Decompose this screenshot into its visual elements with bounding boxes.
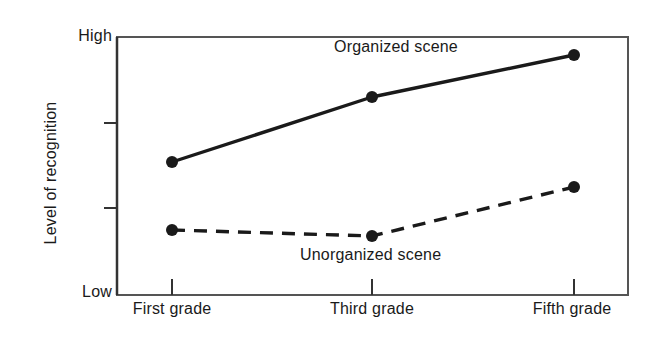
data-point-unorganized-fifth-grade [568,181,580,193]
x-axis-label-third-grade: Third grade [302,300,442,318]
y-axis-title: Level of recognition [42,48,60,298]
series-annotation-unorganized-scene: Unorganized scene [300,246,441,264]
data-point-organized-first-grade [166,156,178,168]
x-axis-label-fifth-grade: Fifth grade [502,300,642,318]
series-line-organized-scene [172,55,574,162]
data-point-organized-third-grade [366,91,378,103]
chart-page: High Low Level of recognition First grad… [0,0,650,351]
data-point-organized-fifth-grade [568,49,580,61]
series-line-unorganized-scene [172,187,574,236]
data-point-unorganized-first-grade [166,224,178,236]
series-annotation-organized-scene: Organized scene [334,38,458,56]
x-axis-label-first-grade: First grade [102,300,242,318]
y-axis-label-high: High [0,27,112,45]
data-point-unorganized-third-grade [366,230,378,242]
